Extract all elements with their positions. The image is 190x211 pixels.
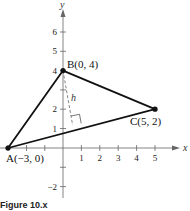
y-tick-label: 5 [53, 46, 58, 56]
altitude-label: h [71, 92, 76, 103]
point-a [5, 145, 10, 150]
y-tick-label: 4 [53, 66, 58, 76]
point-b-label: B(0, 4) [67, 58, 99, 71]
y-tick-label: −2 [47, 182, 57, 192]
x-tick-label: 3 [116, 153, 121, 163]
coordinate-plane-diagram: 1 2 3 4 5 6 5 4 2 1 −2 x y h A(−3, 0) B(… [0, 0, 190, 211]
x-tick-label: 4 [134, 153, 139, 163]
x-axis-arrow-icon [172, 146, 180, 151]
x-tick-label: 1 [79, 153, 84, 163]
figure-caption: Figure 10.x [0, 200, 48, 210]
y-axis-label: y [59, 0, 65, 10]
point-b [60, 68, 65, 73]
point-c [152, 107, 157, 112]
triangle-abc [8, 71, 155, 148]
point-c-label: C(5, 2) [130, 115, 162, 128]
y-tick-label: 6 [53, 27, 58, 37]
x-tick-label: 2 [98, 153, 103, 163]
point-a-label: A(−3, 0) [6, 152, 44, 165]
x-axis-label: x [182, 142, 188, 153]
x-tick-label: 5 [153, 153, 158, 163]
y-tick-label: 1 [53, 124, 58, 134]
y-axis-arrow-icon [61, 9, 66, 17]
y-tick-label: 2 [53, 104, 58, 114]
